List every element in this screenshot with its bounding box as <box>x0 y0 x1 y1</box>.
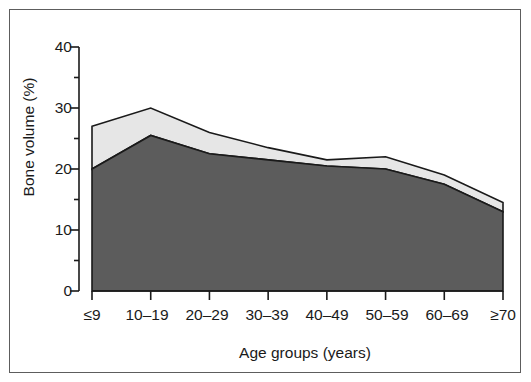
plot-areas <box>92 108 503 291</box>
xtick-label-2: 20–29 <box>185 306 228 324</box>
ytick-label-0: 0 <box>30 282 72 300</box>
figure-container: 0 10 20 30 40 ≤9 10–19 20–29 30–39 40–49… <box>0 0 531 382</box>
xtick-label-5: 50–59 <box>365 306 408 324</box>
xtick-label-3: 30–39 <box>245 306 288 324</box>
xtick-label-6: 60–69 <box>425 306 468 324</box>
xtick-label-7: ≥70 <box>490 306 516 324</box>
y-axis-title: Bone volume (%) <box>20 47 38 227</box>
area-chart-plot <box>0 0 531 382</box>
xtick-label-1: 10–19 <box>125 306 168 324</box>
xtick-label-0: ≤9 <box>83 306 100 324</box>
x-axis-title: Age groups (years) <box>95 344 515 362</box>
xtick-label-4: 40–49 <box>305 306 348 324</box>
